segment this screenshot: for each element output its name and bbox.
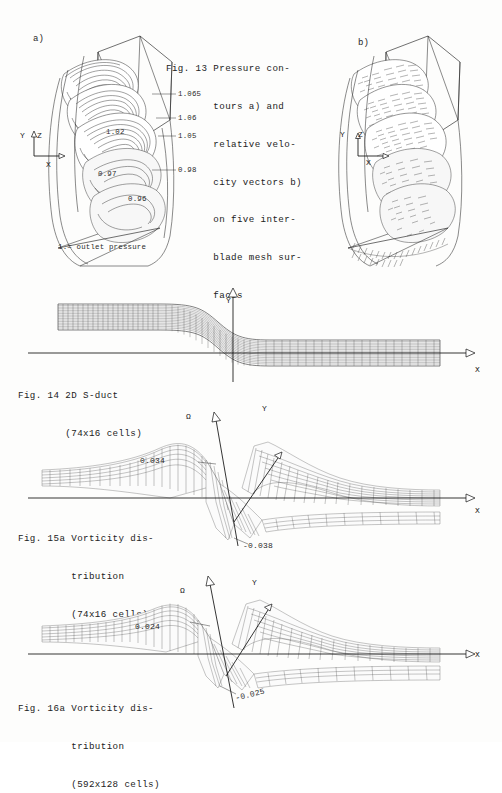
vorticity-peak-positive — [242, 442, 440, 506]
contour-label-096: 0.96 — [128, 195, 147, 203]
axis-label-x-fig16a: X — [475, 650, 480, 659]
axis-label-x-fig14: X — [475, 365, 480, 374]
axis-label-z-fig13a: Z — [37, 131, 42, 140]
vorticity-surface-upstream — [42, 444, 220, 498]
axis-label-y-fig16a: Y — [252, 578, 257, 587]
axis-label-x-fig13b: X — [366, 158, 371, 167]
panel-b-label: b) — [358, 38, 369, 48]
axis-triad-fig13a — [18, 126, 70, 168]
contour-label-102: 1.02 — [106, 128, 125, 136]
axis-label-z-fig13b: Z — [358, 130, 363, 139]
caption-line: relative velo- — [166, 139, 302, 152]
axis-label-omega-fig15a: Ω — [186, 412, 191, 421]
vorticity-value-min-fig15a: -0.038 — [243, 541, 273, 550]
caption-line: blade mesh sur- — [166, 252, 302, 265]
axis-label-y-fig14: Y — [226, 296, 231, 305]
interblade-surface-5 — [90, 184, 165, 243]
outlet-pressure-note: 1.= outlet pressure — [58, 243, 146, 251]
s-duct-mesh — [58, 304, 440, 366]
vorticity-surface-upstream-16 — [42, 604, 210, 654]
caption-line: on five inter- — [166, 214, 302, 227]
axis-label-x-fig13a: X — [46, 160, 51, 169]
contour-label-097: 0.97 — [98, 170, 117, 178]
caption-line: city vectors b) — [166, 177, 302, 190]
vorticity-peak-positive-16 — [232, 600, 440, 662]
figure-16a-caption: Fig. 16a Vorticity dis- tribution (592x1… — [18, 678, 160, 793]
caption-line: Fig. 15a Vorticity dis- — [18, 533, 154, 546]
axis-label-x-fig15a: X — [475, 506, 480, 515]
vorticity-tail-right-16 — [254, 666, 440, 688]
vorticity-value-max-fig16a: 0.024 — [135, 622, 160, 631]
lower-velocity-vectors — [352, 238, 445, 267]
vorticity-value-max-fig15a: 0.034 — [140, 456, 165, 465]
caption-line: (592x128 cells) — [18, 779, 160, 792]
axis-label-omega-fig16a: Ω — [180, 586, 185, 595]
panel-a-label: a) — [33, 34, 44, 44]
vorticity-tail-right — [262, 512, 440, 532]
axis-label-y-fig13a: Y — [20, 131, 25, 140]
caption-line: tribution — [18, 741, 160, 754]
caption-line: tours a) and — [166, 101, 302, 114]
axis-label-y-fig13b: Y — [340, 130, 345, 139]
axis-label-y-fig15a: Y — [262, 404, 267, 413]
caption-line: Fig. 13 Pressure con- — [166, 63, 302, 76]
caption-line: Fig. 16a Vorticity dis- — [18, 703, 160, 716]
